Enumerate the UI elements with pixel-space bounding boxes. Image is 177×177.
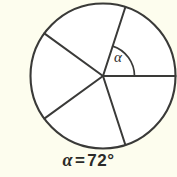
angle-alpha-label: α	[114, 49, 123, 65]
caption-equals-sign: =	[73, 151, 87, 170]
figure-caption: α=72°	[0, 150, 177, 171]
caption-angle-value: 72°	[87, 151, 114, 170]
circle-sector-figure: α α=72°	[0, 0, 177, 177]
caption-alpha-symbol: α	[62, 150, 72, 170]
